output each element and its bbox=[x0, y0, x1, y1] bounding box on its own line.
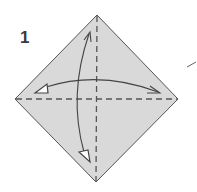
origami-diagram bbox=[0, 0, 197, 192]
stray-mark bbox=[187, 62, 196, 67]
